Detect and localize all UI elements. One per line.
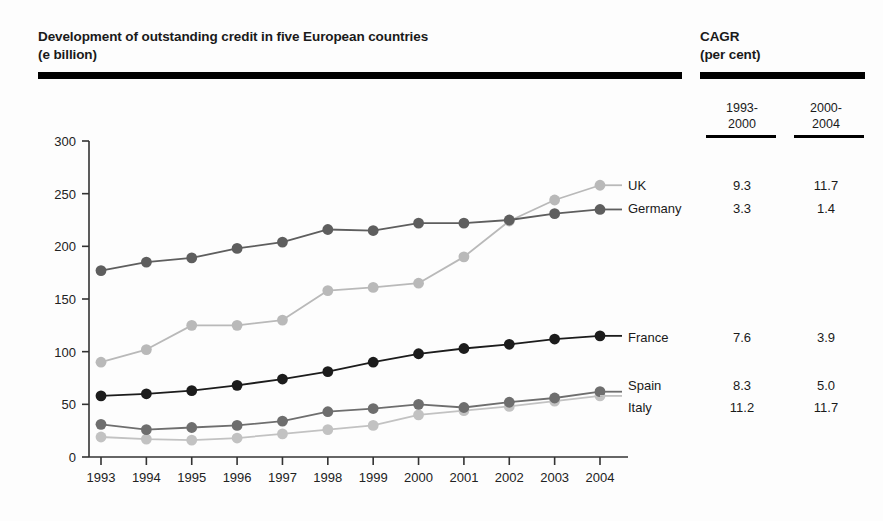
chart-page: Development of outstanding credit in fiv… <box>0 0 883 521</box>
data-point-germany-1996[interactable] <box>232 243 243 254</box>
series-line-spain <box>101 392 600 430</box>
data-point-france-2003[interactable] <box>549 334 560 345</box>
data-point-germany-1994[interactable] <box>141 257 152 268</box>
x-axis-tick-label: 1999 <box>359 470 388 485</box>
cagr-value-uk-2000-2004: 11.7 <box>784 178 868 193</box>
data-point-spain-1997[interactable] <box>277 416 288 427</box>
data-point-spain-1999[interactable] <box>368 403 379 414</box>
data-point-italy-1997[interactable] <box>277 428 288 439</box>
data-point-france-2002[interactable] <box>504 339 515 350</box>
data-point-uk-1994[interactable] <box>141 344 152 355</box>
series-italy <box>96 391 606 446</box>
data-point-uk-2001[interactable] <box>459 251 470 262</box>
data-point-germany-1993[interactable] <box>96 265 107 276</box>
series-label-germany: Germany <box>628 201 681 216</box>
series-label-spain: Spain <box>628 378 661 393</box>
cagr-value-italy-2000-2004: 11.7 <box>784 400 868 415</box>
data-point-uk-2000[interactable] <box>413 278 424 289</box>
series-label-uk: UK <box>628 178 646 193</box>
data-point-france-1996[interactable] <box>232 380 243 391</box>
y-axis-tick-label: 250 <box>54 187 76 202</box>
x-axis-tick-label: 2002 <box>495 470 524 485</box>
data-point-italy-1994[interactable] <box>141 434 152 445</box>
data-point-germany-1999[interactable] <box>368 225 379 236</box>
data-point-spain-2001[interactable] <box>459 402 470 413</box>
data-point-germany-2003[interactable] <box>549 208 560 219</box>
x-axis-tick-label: 2004 <box>586 470 615 485</box>
data-point-france-1993[interactable] <box>96 391 107 402</box>
x-axis-tick-label: 1993 <box>87 470 116 485</box>
series-line-uk <box>101 185 600 362</box>
cagr-value-uk-1993-2000: 9.3 <box>700 178 784 193</box>
data-point-spain-1995[interactable] <box>186 422 197 433</box>
series-france <box>96 330 606 401</box>
x-axis-tick-label: 1995 <box>177 470 206 485</box>
x-axis-tick-label: 1998 <box>313 470 342 485</box>
y-axis-tick-label: 200 <box>54 239 76 254</box>
data-point-spain-1998[interactable] <box>322 406 333 417</box>
x-axis-tick-label: 2001 <box>449 470 478 485</box>
data-point-uk-1995[interactable] <box>186 320 197 331</box>
x-axis-tick-label: 2000 <box>404 470 433 485</box>
data-point-uk-1999[interactable] <box>368 282 379 293</box>
data-point-france-1997[interactable] <box>277 374 288 385</box>
line-chart: 0501001502002503001993199419951996199719… <box>0 0 883 521</box>
y-axis-tick-label: 100 <box>54 345 76 360</box>
data-point-france-1994[interactable] <box>141 388 152 399</box>
x-axis-tick-label: 2003 <box>540 470 569 485</box>
data-point-france-2001[interactable] <box>459 343 470 354</box>
data-point-germany-1998[interactable] <box>322 224 333 235</box>
data-point-italy-1998[interactable] <box>322 424 333 435</box>
x-axis-tick-label: 1994 <box>132 470 161 485</box>
data-point-italy-1999[interactable] <box>368 420 379 431</box>
data-point-germany-2002[interactable] <box>504 215 515 226</box>
cagr-value-france-1993-2000: 7.6 <box>700 330 784 345</box>
data-point-germany-2000[interactable] <box>413 218 424 229</box>
series-line-italy <box>101 396 600 440</box>
cagr-value-spain-2000-2004: 5.0 <box>784 378 868 393</box>
data-point-uk-1993[interactable] <box>96 357 107 368</box>
series-line-france <box>101 336 600 396</box>
data-point-france-1999[interactable] <box>368 357 379 368</box>
x-axis-tick-label: 1997 <box>268 470 297 485</box>
data-point-germany-1997[interactable] <box>277 237 288 248</box>
data-point-spain-1993[interactable] <box>96 419 107 430</box>
data-point-italy-1996[interactable] <box>232 433 243 444</box>
data-point-france-1995[interactable] <box>186 385 197 396</box>
series-germany <box>96 204 606 276</box>
y-axis-tick-label: 50 <box>62 397 76 412</box>
data-point-spain-1996[interactable] <box>232 420 243 431</box>
data-point-spain-2000[interactable] <box>413 399 424 410</box>
data-point-spain-1994[interactable] <box>141 424 152 435</box>
data-point-spain-2002[interactable] <box>504 397 515 408</box>
cagr-value-germany-1993-2000: 3.3 <box>700 201 784 216</box>
data-point-italy-1995[interactable] <box>186 435 197 446</box>
cagr-value-italy-1993-2000: 11.2 <box>700 400 784 415</box>
series-line-germany <box>101 209 600 270</box>
data-point-uk-1997[interactable] <box>277 315 288 326</box>
data-point-uk-1996[interactable] <box>232 320 243 331</box>
series-label-france: France <box>628 330 668 345</box>
y-axis-tick-label: 0 <box>69 450 76 465</box>
data-point-france-1998[interactable] <box>322 366 333 377</box>
x-axis-tick-label: 1996 <box>223 470 252 485</box>
cagr-value-spain-1993-2000: 8.3 <box>700 378 784 393</box>
y-axis-tick-label: 150 <box>54 292 76 307</box>
data-point-uk-2003[interactable] <box>549 195 560 206</box>
cagr-value-france-2000-2004: 3.9 <box>784 330 868 345</box>
chart-canvas: 0501001502002503001993199419951996199719… <box>0 0 883 521</box>
data-point-italy-1993[interactable] <box>96 432 107 443</box>
data-point-germany-1995[interactable] <box>186 253 197 264</box>
y-axis-tick-label: 300 <box>54 134 76 149</box>
series-label-italy: Italy <box>628 400 652 415</box>
data-point-germany-2001[interactable] <box>459 218 470 229</box>
series-uk <box>96 180 606 368</box>
data-point-spain-2003[interactable] <box>549 393 560 404</box>
data-point-italy-2000[interactable] <box>413 409 424 420</box>
cagr-value-germany-2000-2004: 1.4 <box>784 201 868 216</box>
data-point-uk-1998[interactable] <box>322 285 333 296</box>
data-point-france-2000[interactable] <box>413 348 424 359</box>
